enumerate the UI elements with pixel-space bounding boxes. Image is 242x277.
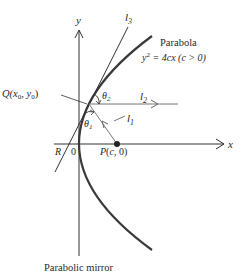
l1-label-pointer [114,116,125,121]
theta1-label: θ1 [84,118,92,131]
q-label-pointer [61,95,87,104]
point-r-label: R [54,146,61,157]
parabola-title: Parabola [160,37,197,48]
theta2-label: θ2 [102,90,111,103]
line-l3-label: l3 [125,11,132,26]
parabola-diagram: y x 0 R P(c, 0) l3 l2 l1 θ2 θ1 Q(x0, y0)… [0,0,242,277]
parabola-equation: y2 = 4cx (c > 0) [141,51,207,64]
x-axis-label: x [227,138,233,150]
caption-parabolic-mirror: Parabolic mirror [44,262,114,273]
point-q-label: Q(x0, y0) [2,88,39,101]
line-l2-label: l2 [140,90,147,105]
point-p-label: P(c, 0) [99,146,127,158]
y-axis-label: y [75,14,81,26]
origin-label: 0 [71,146,76,157]
line-l1-label: l1 [127,112,134,127]
theta2-arc-arrow-icon [96,100,101,104]
